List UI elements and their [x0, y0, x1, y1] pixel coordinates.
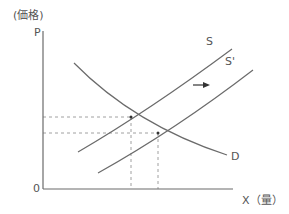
x-axis-label: X（量）: [242, 195, 283, 206]
axes: [43, 31, 233, 189]
y-axis-label: (価格): [13, 10, 44, 21]
demand-label-d: D: [231, 151, 239, 162]
equilibrium-guides: [43, 117, 158, 189]
origin-label: 0: [33, 183, 40, 194]
equilibrium-point-2: [157, 132, 160, 135]
equilibrium-point-1: [130, 116, 133, 119]
supply-curve-s-prime: [98, 70, 253, 173]
supply-curve-s: [78, 49, 232, 152]
supply-label-s: S: [206, 36, 213, 47]
y-axis-symbol: P: [34, 27, 41, 38]
right-arrow-icon: [193, 82, 210, 88]
supply-label-s-prime: S': [225, 56, 235, 67]
supply-demand-diagram: [0, 0, 289, 214]
